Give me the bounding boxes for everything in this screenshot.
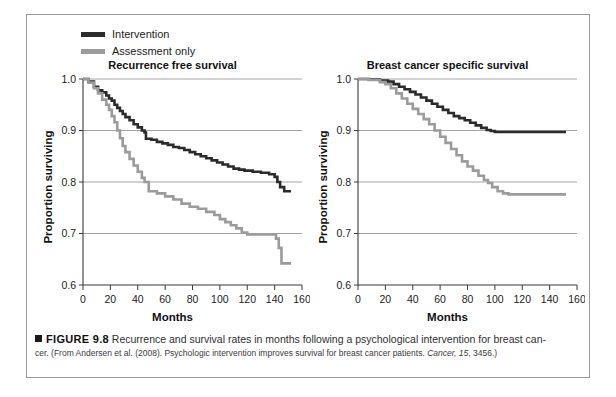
caption-text-line1: Recurrence and survival rates in months … — [112, 333, 546, 345]
svg-text:0.9: 0.9 — [61, 124, 76, 136]
plot-area-right: 0.60.70.80.91.0020406080100120140160 Pro… — [310, 73, 585, 331]
legend-swatch-intervention — [81, 32, 105, 37]
chart-panel-recurrence-free-survival: Recurrence free survival 0.60.70.80.91.0… — [35, 59, 310, 331]
svg-text:0.7: 0.7 — [336, 227, 351, 239]
caption-text-line2-post: , 3456.) — [468, 348, 497, 358]
svg-text:1.0: 1.0 — [61, 73, 76, 85]
chart-svg-left: 0.60.70.80.91.0020406080100120140160 — [35, 73, 310, 331]
svg-text:0.6: 0.6 — [336, 279, 351, 291]
svg-text:0.8: 0.8 — [336, 176, 351, 188]
legend-label-intervention: Intervention — [112, 29, 169, 40]
svg-text:0.8: 0.8 — [61, 176, 76, 188]
chart-title-left: Recurrence free survival — [35, 59, 310, 73]
svg-text:100: 100 — [486, 293, 504, 305]
svg-text:80: 80 — [187, 293, 199, 305]
svg-text:20: 20 — [380, 293, 392, 305]
svg-text:60: 60 — [434, 293, 446, 305]
legend-swatch-assessment-only — [81, 49, 105, 54]
legend-label-assessment-only: Assessment only — [112, 46, 195, 57]
chart-legend: Intervention Assessment only — [81, 27, 195, 61]
svg-text:0: 0 — [80, 293, 86, 305]
svg-text:40: 40 — [407, 293, 419, 305]
figure-caption: FIGURE 9.8 Recurrence and survival rates… — [35, 333, 581, 359]
chart-panel-breast-cancer-specific-survival: Breast cancer specific survival 0.60.70.… — [310, 59, 585, 331]
svg-text:0: 0 — [355, 293, 361, 305]
svg-text:40: 40 — [132, 293, 144, 305]
svg-text:160: 160 — [568, 293, 585, 305]
chart-svg-right: 0.60.70.80.91.0020406080100120140160 — [310, 73, 585, 331]
svg-text:0.9: 0.9 — [336, 124, 351, 136]
x-axis-label-right: Months — [310, 311, 585, 323]
caption-figure-number: FIGURE 9.8 — [46, 333, 109, 345]
plot-area-left: 0.60.70.80.91.0020406080100120140160 Pro… — [35, 73, 310, 331]
svg-text:140: 140 — [266, 293, 284, 305]
svg-text:140: 140 — [541, 293, 559, 305]
caption-journal-name: Cancer, — [427, 348, 456, 358]
y-axis-label-right: Proportion surviving — [317, 112, 329, 262]
y-axis-label-left: Proportion surviving — [42, 112, 54, 262]
svg-text:120: 120 — [513, 293, 531, 305]
caption-text-line2-pre: cer. (From Andersen et al. (2008). Psych… — [35, 348, 427, 358]
svg-text:60: 60 — [159, 293, 171, 305]
legend-item-assessment-only: Assessment only — [81, 44, 195, 59]
x-axis-label-left: Months — [35, 311, 310, 323]
svg-text:20: 20 — [105, 293, 117, 305]
figure-frame: Intervention Assessment only Recurrence … — [26, 14, 590, 378]
svg-text:0.6: 0.6 — [61, 279, 76, 291]
svg-text:160: 160 — [293, 293, 310, 305]
caption-volume: 15 — [456, 348, 468, 358]
svg-text:80: 80 — [462, 293, 474, 305]
svg-text:1.0: 1.0 — [336, 73, 351, 85]
svg-text:100: 100 — [211, 293, 229, 305]
caption-marker-icon — [35, 335, 42, 342]
svg-text:0.7: 0.7 — [61, 227, 76, 239]
chart-title-right: Breast cancer specific survival — [310, 59, 585, 73]
svg-text:120: 120 — [238, 293, 256, 305]
legend-item-intervention: Intervention — [81, 27, 195, 42]
